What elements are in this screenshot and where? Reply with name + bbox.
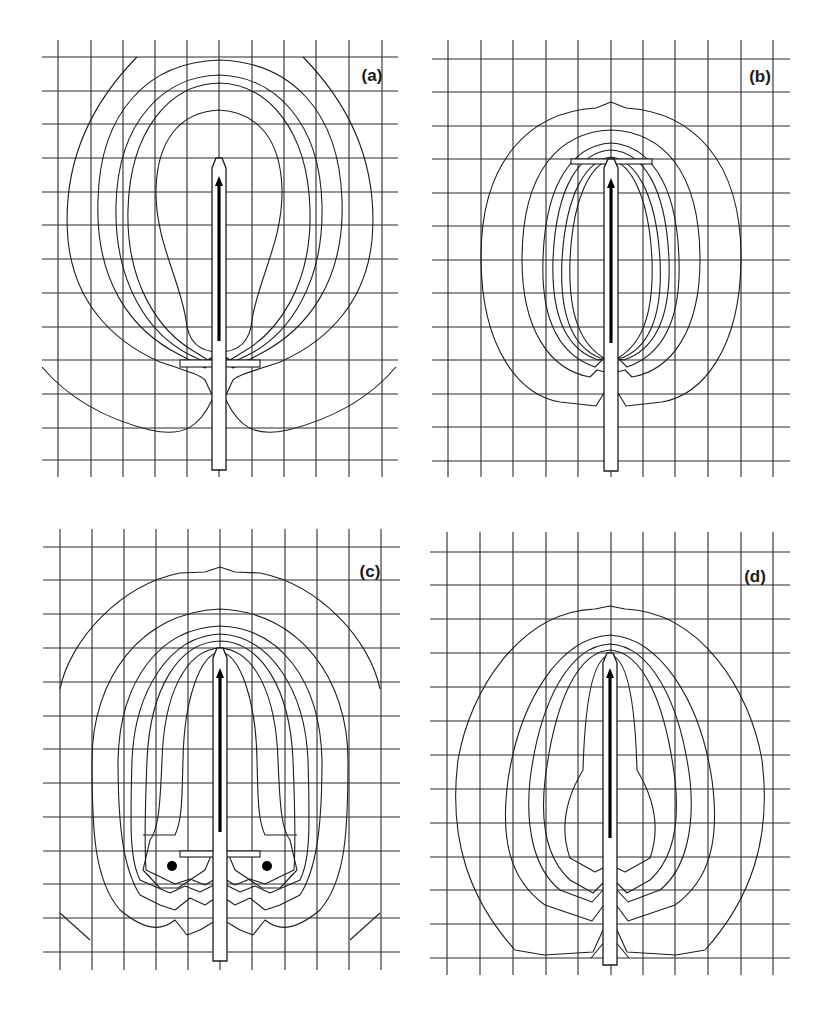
- marker-dot: [167, 861, 177, 871]
- panel-d: (d): [430, 532, 790, 975]
- marker-dot: [262, 861, 272, 871]
- four-panel-contour-figure: (a) (b) (c) (d): [0, 0, 827, 1011]
- panel-label: (a): [362, 66, 383, 85]
- panel-label: (b): [749, 67, 771, 86]
- panel-label: (c): [360, 562, 381, 581]
- panel-label: (d): [744, 567, 766, 586]
- panel-a: (a): [42, 40, 398, 477]
- panel-c: (c): [43, 529, 400, 970]
- panel-b: (b): [432, 40, 790, 477]
